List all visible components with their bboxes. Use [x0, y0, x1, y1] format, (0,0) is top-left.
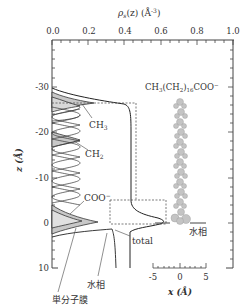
left-axis-tick-labels: -30 -20 -10 0 10 — [35, 82, 49, 273]
monolayer-label: 単分子膜 — [52, 294, 88, 305]
left-axis-label: z (Å) — [13, 148, 24, 173]
svg-text:5: 5 — [203, 272, 208, 282]
total-label: total — [132, 236, 153, 246]
ch3-label: CH3 — [89, 120, 108, 131]
inset-x-axis — [153, 263, 206, 268]
molecule-formula: CH3(CH2)16COO− — [145, 82, 219, 93]
svg-text:0: 0 — [177, 272, 182, 282]
density-profile-figure: ρs(z) (Å-3) 0.0 0.2 0.4 0.6 0.8 1.0 — [0, 0, 249, 306]
svg-text:-30: -30 — [35, 82, 49, 92]
inset-water-label: 水相 — [189, 226, 207, 237]
top-axis-ticks — [52, 40, 233, 45]
right-axis-ticks — [228, 50, 233, 259]
svg-text:-10: -10 — [35, 173, 49, 183]
water-label: 水相 — [87, 279, 105, 290]
svg-text:0.4: 0.4 — [118, 26, 132, 36]
molecule-model — [171, 99, 191, 225]
inset-x-tick-labels: -5 0 5 — [149, 272, 209, 282]
svg-text:1.0: 1.0 — [226, 26, 240, 36]
series-labels: CH3 CH2 COO− total 水相 単分子膜 — [52, 120, 153, 305]
inset-x-axis-label: x (Å) — [167, 286, 192, 297]
svg-text:0.2: 0.2 — [82, 26, 96, 36]
svg-text:-20: -20 — [35, 127, 49, 137]
svg-text:-5: -5 — [149, 272, 157, 282]
top-axis-label: ρs(z) (Å-3) — [117, 7, 160, 19]
ch2-label: CH2 — [85, 149, 104, 160]
svg-text:0.6: 0.6 — [154, 26, 168, 36]
coo-label: COO− — [84, 192, 111, 203]
svg-text:0.8: 0.8 — [190, 26, 204, 36]
svg-text:0.0: 0.0 — [46, 26, 60, 36]
svg-text:10: 10 — [38, 263, 49, 273]
svg-text:0: 0 — [44, 218, 49, 228]
top-axis-tick-labels: 0.0 0.2 0.4 0.6 0.8 1.0 — [46, 26, 240, 36]
ch2-segment-curves — [52, 107, 80, 205]
dashed-step-profile — [52, 103, 166, 224]
